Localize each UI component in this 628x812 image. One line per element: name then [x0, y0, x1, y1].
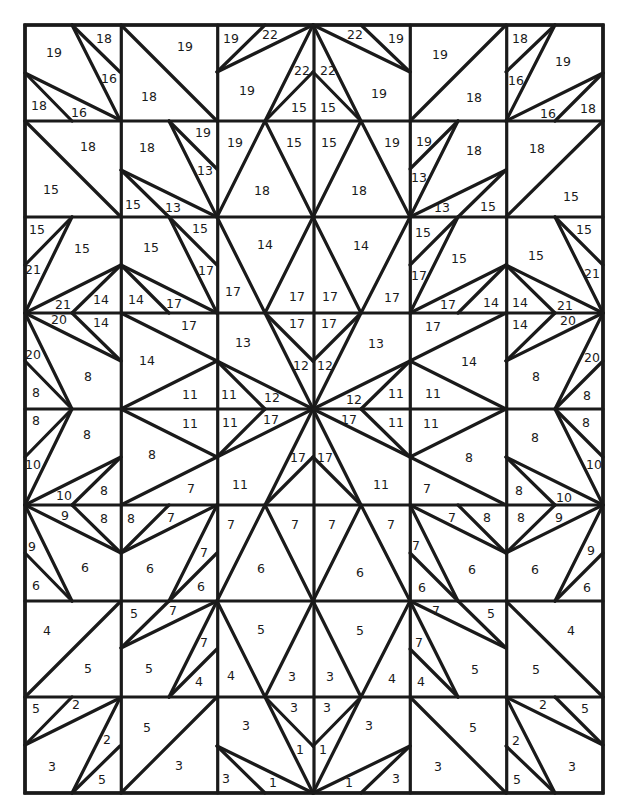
- pattern-line: [217, 601, 265, 697]
- color-number-label: 17: [289, 289, 305, 304]
- color-number-label: 11: [425, 386, 441, 401]
- color-number-label: 21: [557, 298, 573, 313]
- color-number-label: 18: [141, 89, 157, 104]
- color-number-label: 18: [512, 31, 528, 46]
- color-number-label: 5: [469, 720, 477, 735]
- color-number-label: 3: [568, 759, 576, 774]
- color-number-label: 11: [182, 387, 198, 402]
- pattern-line: [121, 409, 217, 457]
- color-number-label: 2: [72, 697, 80, 712]
- color-number-label: 20: [560, 313, 576, 328]
- color-number-label: 18: [80, 139, 96, 154]
- color-number-label: 22: [294, 63, 310, 78]
- color-number-label: 8: [32, 385, 40, 400]
- color-number-label: 14: [353, 238, 369, 253]
- color-number-label: 20: [25, 347, 41, 362]
- color-number-label: 16: [540, 106, 556, 121]
- color-number-label: 15: [528, 248, 544, 263]
- color-number-label: 3: [288, 669, 296, 684]
- color-number-label: 21: [55, 297, 71, 312]
- color-number-label: 15: [286, 135, 302, 150]
- color-number-label: 4: [417, 674, 425, 689]
- color-number-label: 19: [432, 47, 448, 62]
- color-number-label: 7: [200, 635, 208, 650]
- color-number-label: 7: [291, 517, 299, 532]
- color-number-label: 19: [384, 135, 400, 150]
- color-number-label: 16: [508, 73, 524, 88]
- color-number-label: 17: [440, 297, 456, 312]
- color-number-label: 15: [415, 225, 431, 240]
- color-number-label: 5: [32, 701, 40, 716]
- pattern-line: [169, 505, 217, 601]
- pattern-line: [121, 313, 217, 361]
- pattern-line: [555, 409, 603, 457]
- color-number-label: 18: [580, 101, 596, 116]
- color-number-label: 14: [461, 354, 477, 369]
- color-number-label: 20: [51, 312, 67, 327]
- color-number-label: 17: [166, 296, 182, 311]
- color-number-label: 14: [139, 353, 155, 368]
- color-number-label: 7: [187, 481, 195, 496]
- color-number-label: 11: [388, 386, 404, 401]
- color-number-label: 6: [257, 561, 265, 576]
- color-number-label: 9: [555, 510, 563, 525]
- color-number-label: 4: [43, 623, 51, 638]
- color-number-label: 1: [345, 775, 353, 790]
- color-number-label: 17: [425, 319, 441, 334]
- color-number-label: 6: [418, 580, 426, 595]
- color-number-label: 12: [264, 390, 280, 405]
- pattern-line: [217, 217, 265, 313]
- color-number-label: 15: [125, 197, 141, 212]
- color-number-label: 17: [289, 316, 305, 331]
- color-number-label: 8: [583, 388, 591, 403]
- color-number-label: 8: [465, 450, 473, 465]
- pattern-line: [410, 505, 506, 553]
- color-number-label: 3: [175, 758, 183, 773]
- pattern-line: [217, 505, 265, 601]
- pattern-line: [555, 697, 603, 745]
- color-number-label: 3: [242, 718, 250, 733]
- color-number-label: 17: [341, 412, 357, 427]
- color-number-label: 13: [235, 335, 251, 350]
- color-number-label: 15: [563, 189, 579, 204]
- color-number-label: 15: [321, 135, 337, 150]
- color-number-label: 6: [146, 561, 154, 576]
- color-number-label: 17: [317, 450, 333, 465]
- color-number-label: 19: [388, 31, 404, 46]
- quilt-pattern: 1918161816191819221922152219221519191818…: [0, 0, 628, 812]
- color-number-label: 14: [483, 295, 499, 310]
- color-number-label: 8: [582, 415, 590, 430]
- color-number-label: 17: [290, 450, 306, 465]
- color-number-label: 8: [148, 447, 156, 462]
- pattern-line: [410, 697, 506, 793]
- color-number-label: 19: [195, 125, 211, 140]
- color-number-label: 8: [83, 427, 91, 442]
- color-number-label: 21: [584, 266, 600, 281]
- color-number-label: 6: [356, 565, 364, 580]
- color-number-label: 15: [143, 240, 159, 255]
- color-number-label: 3: [323, 700, 331, 715]
- color-number-label: 8: [531, 430, 539, 445]
- color-number-label: 16: [71, 105, 87, 120]
- color-number-label: 7: [387, 517, 395, 532]
- pattern-line: [410, 25, 506, 121]
- pattern-lines: [25, 25, 603, 793]
- color-number-label: 5: [356, 623, 364, 638]
- color-number-label: 10: [586, 457, 602, 472]
- color-number-label: 18: [96, 31, 112, 46]
- pattern-line: [217, 746, 265, 793]
- color-number-label: 14: [128, 292, 144, 307]
- color-number-label: 7: [167, 510, 175, 525]
- color-number-label: 14: [512, 317, 528, 332]
- color-number-label: 19: [227, 135, 243, 150]
- color-number-label: 8: [32, 413, 40, 428]
- color-number-label: 16: [101, 71, 117, 86]
- color-number-label: 3: [290, 700, 298, 715]
- color-number-label: 5: [581, 701, 589, 716]
- color-number-label: 18: [466, 143, 482, 158]
- color-number-label: 11: [222, 415, 238, 430]
- color-number-label: 7: [227, 517, 235, 532]
- color-number-label: 18: [351, 183, 367, 198]
- pattern-line: [555, 361, 603, 409]
- color-number-label: 5: [513, 772, 521, 787]
